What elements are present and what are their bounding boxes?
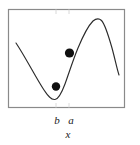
tick-label-a: a (68, 114, 74, 126)
graph-figure: b a x (0, 0, 140, 145)
point-marker-a (65, 48, 74, 57)
axis-label-x: x (65, 128, 71, 140)
figure-container: b a x (0, 0, 140, 145)
tick-label-b: b (54, 114, 60, 126)
point-marker-b (52, 82, 60, 90)
